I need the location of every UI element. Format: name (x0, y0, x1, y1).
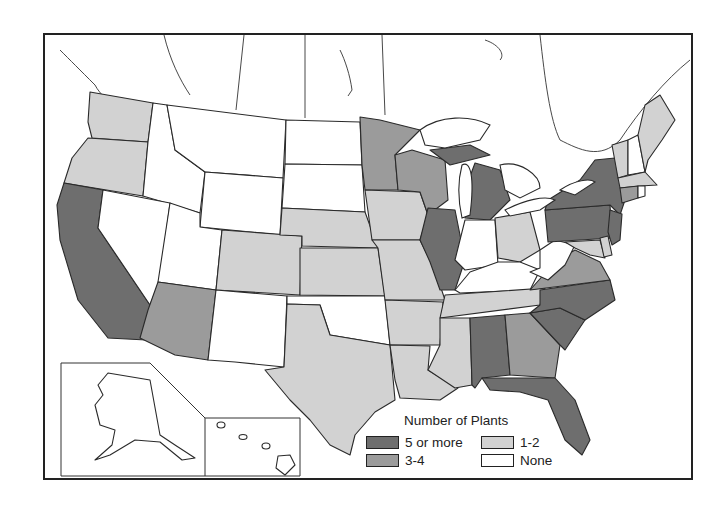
state-iowa[interactable] (365, 190, 428, 240)
legend-item-3-4: 3-4 (366, 453, 425, 467)
state-north-dakota[interactable] (285, 120, 362, 165)
legend-item-none: None (481, 453, 552, 467)
map-legend: Number of Plants 5 or more 1-2 3-4 None (366, 413, 566, 473)
alaska-outline[interactable] (95, 373, 195, 460)
state-wyoming[interactable] (200, 172, 283, 235)
state-kansas[interactable] (300, 248, 385, 296)
state-new-mexico[interactable] (208, 290, 287, 367)
legend-label-1-2: 1-2 (520, 435, 540, 450)
legend-swatch-5-or-more (366, 436, 399, 449)
state-connecticut[interactable] (620, 186, 638, 203)
state-rhode-island[interactable] (638, 186, 645, 198)
state-indiana[interactable] (455, 220, 498, 270)
state-washington[interactable] (88, 92, 153, 142)
state-new-jersey[interactable] (608, 210, 622, 245)
legend-swatch-1-2 (481, 436, 514, 449)
legend-swatch-3-4 (366, 454, 399, 467)
state-maine[interactable] (638, 95, 675, 172)
legend-item-1-2: 1-2 (481, 435, 540, 449)
state-alabama[interactable] (470, 315, 510, 388)
legend-label-3-4: 3-4 (405, 453, 425, 468)
legend-item-5-or-more: 5 or more (366, 435, 463, 449)
state-south-dakota[interactable] (282, 164, 365, 212)
us-choropleth-map (0, 0, 722, 513)
legend-label-none: None (520, 453, 552, 468)
hawaii-outline[interactable] (217, 422, 295, 475)
legend-title: Number of Plants (404, 413, 508, 428)
state-ohio[interactable] (495, 212, 540, 262)
legend-swatch-none (481, 454, 514, 467)
state-arkansas[interactable] (385, 300, 443, 345)
state-pennsylvania[interactable] (545, 205, 612, 242)
legend-label-5-or-more: 5 or more (405, 435, 463, 450)
state-colorado[interactable] (216, 230, 302, 295)
